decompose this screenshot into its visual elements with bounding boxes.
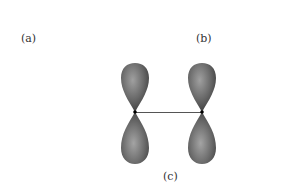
left-upper-lobe <box>121 63 149 112</box>
right-nucleus <box>200 110 204 114</box>
right-upper-lobe <box>188 63 216 112</box>
left-nucleus <box>133 110 137 114</box>
left-lower-lobe <box>121 112 149 164</box>
right-lower-lobe <box>188 112 216 164</box>
p-orbital-diagram <box>0 0 296 189</box>
